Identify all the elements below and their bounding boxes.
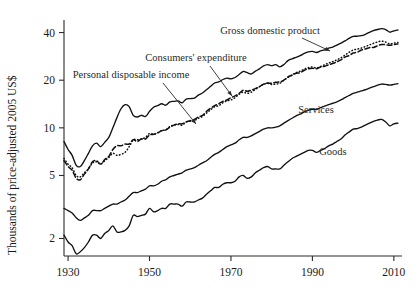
y-tick-label: 2 xyxy=(49,232,55,244)
x-tick-label: 2010 xyxy=(382,266,405,278)
series-annotation-label: Goods xyxy=(319,146,346,157)
series-line xyxy=(64,29,398,167)
series-annotation-label: Consumers' expenditure xyxy=(145,52,247,63)
x-tick-label: 1930 xyxy=(57,266,80,278)
x-tick-label: 1970 xyxy=(219,266,242,278)
y-tick-label: 40 xyxy=(44,27,56,39)
series-annotations: Gross domestic productConsumers' expendi… xyxy=(73,25,347,157)
y-tick-label: 5 xyxy=(49,169,55,181)
annotation-leader-line xyxy=(210,66,232,96)
y-tick-label: 20 xyxy=(44,74,56,86)
chart-figure: Thousands of price-adjusted 2005 US$ 251… xyxy=(0,0,416,289)
line-chart: Thousands of price-adjusted 2005 US$ 251… xyxy=(0,0,416,289)
annotation-arrowhead xyxy=(227,91,232,96)
x-tick-label: 1990 xyxy=(301,266,324,278)
x-tick-label: 1950 xyxy=(138,266,161,278)
y-tick-label: 10 xyxy=(44,122,56,134)
series-annotation-label: Services xyxy=(298,104,334,115)
series-line xyxy=(64,84,398,221)
series-annotation-label: Gross domestic product xyxy=(220,25,320,36)
series-line xyxy=(64,119,398,254)
y-axis-ticks: 25102040 xyxy=(44,27,65,245)
series-annotation-label: Personal disposable income xyxy=(73,69,190,80)
series-line xyxy=(64,44,398,180)
y-axis-title: Thousands of price-adjusted 2005 US$ xyxy=(6,75,19,255)
x-axis-ticks: 19301950197019902010 xyxy=(57,256,406,278)
